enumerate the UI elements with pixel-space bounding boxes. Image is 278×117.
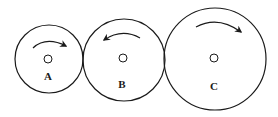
wheel-c-hub bbox=[210, 54, 218, 62]
wheel-a: A bbox=[15, 25, 83, 93]
wheel-c-label: C bbox=[210, 80, 218, 92]
wheel-a-label: A bbox=[44, 70, 52, 82]
gear-train-diagram: A B C bbox=[0, 0, 278, 117]
wheel-a-clockwise-arrow-icon bbox=[33, 41, 66, 48]
wheel-b-hub bbox=[119, 54, 127, 62]
wheel-b: B bbox=[83, 19, 165, 101]
wheel-b-counterclockwise-arrow-icon bbox=[104, 33, 140, 40]
wheel-b-label: B bbox=[118, 78, 126, 90]
wheel-c-clockwise-arrow-icon bbox=[196, 22, 241, 32]
wheel-a-hub bbox=[44, 55, 52, 63]
wheel-c: C bbox=[164, 8, 266, 110]
